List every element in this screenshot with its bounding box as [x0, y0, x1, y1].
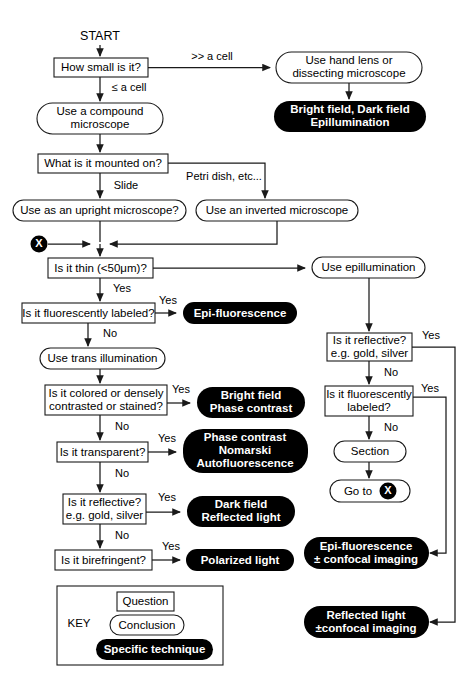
edge-label-no-reflective-left: No [115, 529, 129, 541]
node-upright-label: Use as an upright microscope? [20, 204, 179, 216]
node-dark-reflected-line2: Reflected light [201, 511, 280, 523]
edge-label-petri-dish: Petri dish, etc... [186, 170, 262, 182]
node-hand-lens-line2: dissecting microscope [292, 67, 405, 79]
node-fluor-left-label: Is it fluorescently labeled? [22, 307, 154, 319]
edge-inverted-to-merge [110, 221, 277, 244]
edge-label-slide: Slide [114, 179, 138, 191]
edge-label-much-bigger: >> a cell [191, 50, 233, 62]
node-reflective-right-line2: e.g. gold, silver [331, 347, 409, 359]
edge-label-no-colored: No [115, 420, 129, 432]
key-conclusion-label: Conclusion [119, 619, 176, 631]
node-trans-illum-label: Use trans illumination [48, 352, 158, 364]
node-reflective-left-line1: Is it reflective? [68, 496, 142, 508]
edge-fluorright-yes-to-epi-confocal [413, 397, 446, 553]
x-marker-glyph: X [35, 237, 43, 249]
node-reflected-confocal-line2: ±confocal imaging [316, 622, 417, 634]
node-bright-phase-line1: Bright field [221, 389, 282, 401]
node-bright-dark-epi-line1: Bright field, Dark field [290, 103, 410, 115]
edge-label-yes-fluor-right: Yes [421, 382, 439, 394]
node-reflective-left-line2: e.g. gold, silver [66, 509, 144, 521]
edge-label-le-a-cell: ≤ a cell [112, 81, 147, 93]
goto-x-marker-glyph: X [384, 484, 392, 496]
edge-label-yes-transparent: Yes [158, 432, 176, 444]
node-epi-fluorescence-label: Epi-fluorescence [194, 307, 287, 319]
node-bright-dark-epi-line2: Epillumination [310, 116, 389, 128]
node-epi-confocal-line1: Epi-fluorescence [320, 540, 413, 552]
edge-label-no-transparent: No [115, 467, 129, 479]
node-phase-nomarski-line2: Nomarski [219, 444, 271, 456]
node-birefringent-label: Is it birefringent? [61, 554, 146, 566]
node-use-epi-label: Use epillumination [322, 261, 416, 273]
edge-label-yes-reflective-left: Yes [158, 491, 176, 503]
node-reflected-confocal-line1: Reflected light [326, 609, 405, 621]
node-colored-line1: Is it colored or densely [48, 387, 163, 399]
node-phase-nomarski-line3: Autofluorescence [196, 457, 293, 469]
node-inverted-label: Use an inverted microscope [206, 204, 349, 216]
node-how-small-label: How small is it? [61, 61, 141, 73]
key-question-label: Question [122, 595, 168, 607]
node-fluor-right-line1: Is it fluorescently [326, 388, 412, 400]
flowchart-root: START How small is it? >> a cell ≤ a cel… [0, 0, 469, 687]
node-polarized-label: Polarized light [201, 554, 280, 566]
node-is-thin-label: Is it thin (<50μm)? [54, 262, 147, 274]
node-fluor-right-line2: labeled? [347, 401, 390, 413]
key-technique-label: Specific technique [104, 643, 206, 655]
node-goto-x-label: Go to [344, 485, 372, 497]
edge-label-no-fluor-right: No [384, 421, 398, 433]
node-transparent-label: Is it transparent? [60, 446, 146, 458]
node-bright-phase-line2: Phase contrast [210, 402, 293, 414]
node-hand-lens-line1: Use hand lens or [306, 54, 393, 66]
node-compound-line1: Use a compound [57, 105, 144, 117]
edge-label-yes-birefringent: Yes [162, 540, 180, 552]
node-compound-line2: microscope [71, 118, 130, 130]
edge-label-no-reflective-right: No [384, 366, 398, 378]
flowchart-svg: START How small is it? >> a cell ≤ a cel… [0, 0, 469, 687]
node-section-label: Section [351, 445, 389, 457]
edge-label-yes-reflective-right: Yes [422, 329, 440, 341]
edge-label-yes-thin: Yes [113, 282, 131, 294]
node-dark-reflected-line1: Dark field [215, 498, 267, 510]
node-phase-nomarski-line1: Phase contrast [204, 431, 287, 443]
node-reflective-right-line1: Is it reflective? [333, 334, 407, 346]
start-label: START [80, 29, 120, 43]
key-title: KEY [67, 617, 90, 629]
edge-label-no-fluor-left: No [103, 327, 117, 339]
edge-label-yes-fluor-left: Yes [159, 294, 177, 306]
node-epi-confocal-line2: ± confocal imaging [314, 553, 418, 565]
node-mounted-on-label: What is it mounted on? [44, 157, 162, 169]
edge-label-yes-colored: Yes [172, 383, 190, 395]
node-colored-line2: contrasted or stained? [49, 400, 163, 412]
